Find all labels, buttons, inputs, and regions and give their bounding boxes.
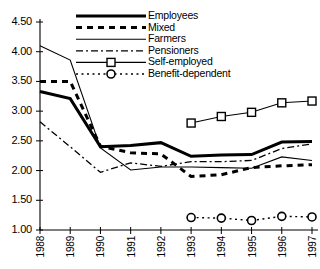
marker-square bbox=[248, 108, 256, 116]
legend-marker-square bbox=[107, 58, 115, 66]
y-axis-tick-label: 4.00 bbox=[0, 45, 32, 57]
legend-item-label: Employees bbox=[148, 9, 198, 21]
marker-square bbox=[187, 119, 195, 127]
y-axis-tick-label: 2.50 bbox=[0, 134, 32, 146]
legend-marker-circle bbox=[107, 70, 115, 78]
line-chart: 4.504.003.503.002.502.001.501.00 1988198… bbox=[0, 0, 320, 269]
x-axis-tick-label: 1995 bbox=[247, 236, 258, 257]
y-axis-tick-label: 3.50 bbox=[0, 74, 32, 86]
x-axis-tick-label: 1988 bbox=[35, 236, 46, 257]
marker-circle bbox=[187, 214, 195, 222]
marker-circle bbox=[217, 214, 225, 222]
series-line-mixed bbox=[40, 81, 312, 176]
legend-swatches bbox=[76, 16, 146, 78]
marker-circle bbox=[308, 213, 316, 221]
marker-circle bbox=[278, 212, 286, 220]
legend-item-label: Mixed bbox=[148, 21, 175, 33]
x-axis-tick-label: 1991 bbox=[126, 236, 137, 257]
y-axis-tick-label: 2.00 bbox=[0, 164, 32, 176]
x-axis-tick-label: 1997 bbox=[307, 236, 318, 257]
series-line-employees bbox=[40, 92, 312, 157]
y-axis-tick-label: 3.00 bbox=[0, 104, 32, 116]
legend-item-label: Self-employed bbox=[148, 55, 213, 67]
x-axis-tick-label: 1992 bbox=[156, 236, 167, 257]
x-axis-tick-label: 1990 bbox=[95, 236, 106, 257]
x-axis-tick-label: 1993 bbox=[186, 236, 197, 257]
legend-item-label: Pensioners bbox=[148, 44, 199, 56]
x-axis-tick-label: 1989 bbox=[65, 236, 76, 257]
x-axis-tick-label: 1994 bbox=[216, 236, 227, 257]
marker-circle bbox=[248, 216, 256, 224]
y-axis-tick-label: 1.50 bbox=[0, 193, 32, 205]
y-axis-tick-label: 4.50 bbox=[0, 15, 32, 27]
x-axis-tick-label: 1996 bbox=[277, 236, 288, 257]
y-axis-tick-label: 1.00 bbox=[0, 223, 32, 235]
marker-square bbox=[278, 99, 286, 107]
legend-item-label: Farmers bbox=[148, 32, 186, 44]
marker-square bbox=[308, 97, 316, 105]
marker-square bbox=[217, 112, 225, 120]
legend-item-label: Benefit-dependent bbox=[148, 67, 230, 79]
